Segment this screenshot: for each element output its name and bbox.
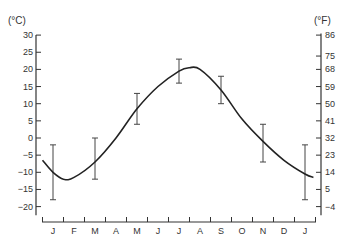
month-label: M — [133, 226, 141, 236]
left-tick-label: 25 — [23, 47, 33, 57]
left-tick-label: −5 — [23, 150, 33, 160]
left-tick-label: 15 — [23, 82, 33, 92]
left-tick-label: 0 — [28, 133, 33, 143]
left-tick-label: −15 — [18, 184, 33, 194]
month-label: J — [303, 226, 308, 236]
temperature-chart: 302520151050−5−10−15−20 8675685950413223… — [0, 0, 353, 248]
month-label: N — [260, 226, 267, 236]
right-tick-label: −4 — [325, 202, 335, 212]
left-tick-label: 30 — [23, 30, 33, 40]
right-axis-fahrenheit: 8675685950413223145−4 — [316, 30, 335, 215]
right-tick-label: 50 — [325, 99, 335, 109]
month-label: J — [156, 226, 161, 236]
month-label: D — [281, 226, 288, 236]
right-tick-label: 59 — [325, 82, 335, 92]
left-tick-label: 20 — [23, 64, 33, 74]
error-bars — [50, 59, 308, 200]
right-tick-label: 75 — [325, 51, 335, 61]
right-tick-label: 5 — [325, 184, 330, 194]
right-tick-label: 41 — [325, 116, 335, 126]
x-axis-months: JFMAMJJASONDJ — [42, 217, 316, 236]
month-label: J — [51, 226, 56, 236]
month-label: M — [91, 226, 99, 236]
celsius-unit-label: (°C) — [8, 15, 26, 26]
month-label: A — [113, 226, 119, 236]
right-tick-label: 23 — [325, 150, 335, 160]
month-label: S — [218, 226, 224, 236]
left-tick-label: −10 — [18, 167, 33, 177]
month-label: O — [238, 226, 245, 236]
right-tick-label: 32 — [325, 133, 335, 143]
right-tick-label: 14 — [325, 167, 335, 177]
temperature-curve — [43, 67, 314, 180]
left-tick-label: 10 — [23, 99, 33, 109]
month-label: J — [177, 226, 182, 236]
left-tick-label: 5 — [28, 116, 33, 126]
fahrenheit-unit-label: (°F) — [314, 15, 331, 26]
month-label: A — [197, 226, 203, 236]
right-tick-label: 68 — [325, 64, 335, 74]
month-label: F — [71, 226, 77, 236]
right-tick-label: 86 — [325, 30, 335, 40]
left-tick-label: −20 — [18, 202, 33, 212]
left-axis-celsius: 302520151050−5−10−15−20 — [18, 30, 41, 215]
